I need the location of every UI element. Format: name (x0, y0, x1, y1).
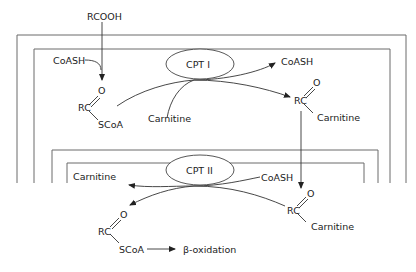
acyl-coa-bottom-o: O (120, 210, 127, 220)
acylcarnitine-bottom-rc: RC (287, 206, 300, 216)
coash-bottom-label: CoASH (261, 173, 293, 183)
acyl-coa-top-o: O (98, 86, 105, 96)
coash-in-label: CoASH (53, 56, 85, 66)
acyl-coa-bottom-scoa: SCoA (119, 245, 144, 255)
cpt2-to-acylcoa (130, 186, 194, 205)
acyl-coa-top-rc: RC (78, 103, 91, 113)
acylcarnitine-top-o: O (313, 78, 320, 88)
cpt1-to-acylcarnitine (194, 80, 290, 97)
coash-join-line (85, 60, 101, 70)
carnitine-in-label: Carnitine (148, 114, 191, 124)
carnitine-out-label: Carnitine (73, 172, 116, 182)
beta-oxidation-label: β-oxidation (183, 245, 236, 255)
acyl-coa-top-scoa: SCoA (98, 120, 123, 130)
cpt2-label: CPT II (186, 166, 213, 176)
acylcarnitine-to-cpt2 (194, 186, 285, 206)
acyl-coa-to-cpt1 (117, 80, 194, 106)
acylcarnitine-bottom-carnitine: Carnitine (311, 222, 354, 232)
rcooh-label: RCOOH (87, 12, 122, 22)
acyl-coa-bottom-bonds (110, 218, 121, 243)
acylcarnitine-top-rc: RC (294, 96, 307, 106)
carnitine-shuttle-diagram: RCOOH CoASH O RC SCoA Carnitine CPT I Co… (0, 0, 416, 272)
acyl-coa-bottom-rc: RC (98, 227, 111, 237)
cpt1-label: CPT I (186, 60, 210, 70)
acylcarnitine-top-carnitine: Carnitine (317, 113, 360, 123)
coash-out-label: CoASH (281, 57, 313, 67)
acylcarnitine-bottom-o: O (307, 189, 314, 199)
cpt2-to-carnitine (129, 185, 194, 187)
